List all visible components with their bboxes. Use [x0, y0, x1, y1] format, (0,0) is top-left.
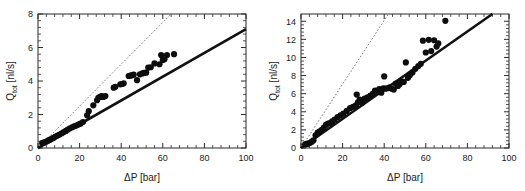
plot-right-data-markers [302, 18, 448, 148]
x-tick-label: 60 [158, 153, 168, 163]
y-axis-label-units: [nl/s] [5, 61, 16, 85]
y-axis-label-subscript: tot [274, 85, 281, 93]
y-tick-label: 6 [28, 43, 33, 53]
data-point [428, 48, 434, 54]
y-tick-label: 2 [291, 125, 296, 135]
data-point [381, 73, 387, 79]
figure-two-panel-scatter: 02040608010002468ΔP [bar]Qtot [nl/s] 020… [0, 0, 525, 191]
data-point [131, 72, 137, 78]
x-tick-label: 0 [35, 153, 40, 163]
plot-left-data-markers [39, 51, 177, 146]
plot-left-reference-line [38, 14, 171, 148]
y-tick-label: 14 [286, 17, 296, 27]
plot-right-svg: 02040608010002468101214ΔP [bar]Qtot [nl/… [262, 0, 525, 191]
y-tick-label: 4 [291, 107, 296, 117]
y-axis-label-units: [nl/s] [268, 61, 279, 85]
data-point [171, 51, 177, 57]
y-tick-label: 8 [28, 9, 33, 19]
x-tick-label: 60 [421, 153, 431, 163]
x-tick-label: 80 [462, 153, 472, 163]
x-axis-label: ΔP [bar] [387, 172, 423, 183]
x-tick-label: 80 [199, 153, 209, 163]
y-tick-label: 0 [28, 143, 33, 153]
data-point [442, 18, 448, 24]
data-point [86, 108, 92, 114]
plot-left-svg: 02040608010002468ΔP [bar]Qtot [nl/s] [0, 0, 262, 191]
x-tick-label: 100 [501, 153, 516, 163]
y-tick-label: 12 [286, 35, 296, 45]
x-tick-label: 40 [379, 153, 389, 163]
plot-line-ideal-reference [301, 14, 388, 148]
plot-right-labels: 02040608010002468101214ΔP [bar]Qtot [nl/… [268, 17, 517, 183]
y-axis-label: Qtot [nl/s] [5, 61, 18, 101]
data-point [121, 80, 127, 86]
x-tick-label: 20 [338, 153, 348, 163]
data-point [423, 49, 429, 55]
panel-left: 02040608010002468ΔP [bar]Qtot [nl/s] [0, 0, 262, 191]
data-point [90, 102, 96, 108]
plot-line-ideal-reference [38, 14, 171, 148]
y-tick-label: 2 [28, 110, 33, 120]
data-point [80, 119, 86, 125]
x-tick-label: 20 [75, 153, 85, 163]
data-point [403, 59, 409, 65]
data-point [134, 77, 140, 83]
y-tick-label: 8 [291, 71, 296, 81]
x-tick-label: 100 [238, 153, 253, 163]
data-point [164, 52, 170, 58]
x-axis-label: ΔP [bar] [124, 172, 160, 183]
x-tick-label: 0 [298, 153, 303, 163]
data-point [102, 93, 108, 99]
y-tick-label: 6 [291, 89, 296, 99]
plot-right-reference-line [301, 14, 388, 148]
y-tick-label: 10 [286, 53, 296, 63]
data-point [420, 38, 426, 44]
y-tick-label: 0 [291, 143, 296, 153]
y-axis-label-subscript: tot [11, 85, 18, 93]
x-tick-label: 40 [116, 153, 126, 163]
y-tick-label: 4 [28, 76, 33, 86]
data-point [435, 40, 441, 46]
y-axis-label: Qtot [nl/s] [268, 61, 281, 101]
data-point [426, 37, 432, 43]
panel-right: 02040608010002468101214ΔP [bar]Qtot [nl/… [262, 0, 524, 191]
data-point [418, 61, 424, 67]
